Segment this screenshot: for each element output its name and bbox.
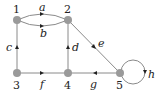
vertex-label-3: 3 [13, 79, 20, 92]
vertex-3 [13, 69, 21, 77]
vertex-2 [64, 16, 72, 24]
vertex-label-2: 2 [64, 3, 71, 16]
arrow-g-icon [93, 71, 97, 75]
vertex-label-5: 5 [116, 79, 123, 92]
edge-a [17, 14, 68, 20]
vertex-5 [116, 69, 124, 77]
edge-b [17, 20, 68, 26]
edge-label-a: a [39, 1, 46, 14]
arrow-f-icon [40, 71, 44, 75]
edge-h-loop [121, 60, 145, 84]
edge-label-e: e [98, 37, 105, 50]
edge-label-b: b [40, 27, 47, 40]
edge-label-g: g [90, 78, 97, 91]
arrow-h-icon [143, 70, 147, 74]
edge-label-d: d [72, 41, 79, 54]
arrow-c-icon [15, 45, 19, 49]
arrow-d-icon [66, 45, 70, 49]
graph-diagram: 1 2 3 4 5 a b c d e f g h [0, 0, 156, 94]
edge-label-h: h [148, 68, 155, 81]
edge-label-f: f [39, 78, 46, 91]
vertex-1 [13, 16, 21, 24]
vertex-4 [64, 69, 72, 77]
edge-label-c: c [6, 41, 12, 54]
vertex-label-1: 1 [13, 3, 20, 16]
vertex-label-4: 4 [64, 79, 71, 92]
